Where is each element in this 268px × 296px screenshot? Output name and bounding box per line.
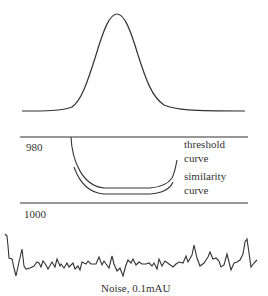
axis-label-1000: 1000 [24,208,46,220]
noise-trace [5,234,257,276]
threshold-curve-label-line2: curve [184,152,208,164]
noise-caption: Noise, 0.1mAU [101,282,170,294]
axis-label-980: 980 [26,141,43,153]
threshold-curve [71,137,177,188]
similarity-curve-label-line2: curve [184,184,208,196]
similarity-curve-label-line1: similarity [184,170,226,182]
gaussian-peak-curve [22,14,245,111]
similarity-curve [74,167,173,194]
threshold-curve-label-line1: threshold [184,138,225,150]
